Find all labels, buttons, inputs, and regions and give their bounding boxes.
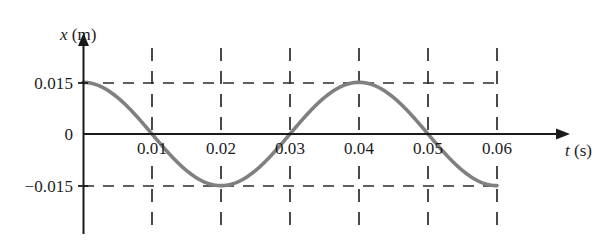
x-tick-label-0.02: 0.02 bbox=[193, 140, 249, 157]
x-tick-label-0.05: 0.05 bbox=[400, 140, 456, 157]
x-axis-arrowhead bbox=[556, 129, 570, 140]
axes-lines bbox=[78, 33, 570, 234]
x-tick-label-0.03: 0.03 bbox=[262, 140, 318, 157]
y-axis-title: x (m) bbox=[60, 26, 96, 43]
y-tick-label-neg0.015: −0.015 bbox=[0, 178, 73, 195]
y-axis-title-variable: x bbox=[60, 25, 68, 44]
oscillation-graph-figure: x (m) t (s) 0.015 0 −0.015 0.010.020.030… bbox=[0, 0, 610, 241]
y-tick-label-0: 0 bbox=[0, 126, 73, 143]
x-axis-title-unit: (s) bbox=[574, 141, 592, 160]
x-tick-label-0.06: 0.06 bbox=[469, 140, 525, 157]
y-axis-title-unit: (m) bbox=[72, 25, 97, 44]
vertical-gridlines bbox=[152, 48, 497, 228]
x-tick-label-0.04: 0.04 bbox=[331, 140, 387, 157]
x-tick-label-0.01: 0.01 bbox=[124, 140, 180, 157]
x-axis-title: t (s) bbox=[565, 142, 592, 159]
y-tick-label-0.015: 0.015 bbox=[0, 75, 73, 92]
